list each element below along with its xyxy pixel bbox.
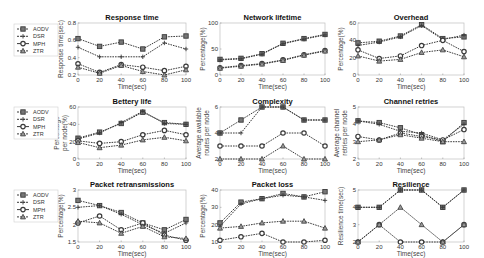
chart-title: Packet loss bbox=[252, 180, 293, 189]
legend-label: AODV bbox=[33, 26, 49, 32]
legend-label: ZTR bbox=[33, 131, 44, 137]
y-tick-label: 0.4 bbox=[68, 55, 77, 61]
data-point bbox=[239, 118, 243, 122]
legend: AODVDSRMPHZTR bbox=[14, 107, 58, 139]
x-axis-label: Time(sec) bbox=[397, 167, 426, 175]
x-tick-label: 100 bbox=[181, 77, 192, 83]
x-tick-label: 100 bbox=[320, 161, 331, 167]
data-point bbox=[462, 49, 466, 53]
plot-frame bbox=[78, 107, 186, 159]
data-point bbox=[218, 238, 222, 242]
y-tick-label: 0.2 bbox=[68, 72, 77, 78]
chart-title: Bettery life bbox=[113, 97, 152, 106]
x-axis-label: Time(sec) bbox=[118, 250, 147, 258]
legend-label: MPH bbox=[33, 41, 45, 47]
x-tick-label: 100 bbox=[459, 77, 470, 83]
x-axis-label: Time(sec) bbox=[258, 250, 287, 258]
subplot-channel-retries: Channel retries020406080100Time(sec)2345… bbox=[333, 97, 470, 175]
legend-marker-square bbox=[21, 27, 25, 31]
x-tick-label: 0 bbox=[218, 244, 222, 250]
y-tick-label: 1.5 bbox=[68, 239, 77, 245]
data-point bbox=[97, 214, 101, 218]
data-point bbox=[141, 133, 145, 137]
y-tick-label: 40 bbox=[69, 121, 76, 127]
data-point bbox=[356, 48, 360, 52]
data-point bbox=[323, 238, 327, 242]
subplot-overhead: Overhead020406080100Time(sec)0204060Perc… bbox=[337, 13, 470, 91]
y-tick-label: 5 bbox=[353, 104, 357, 110]
y-tick-label: 60 bbox=[69, 104, 76, 110]
plot-frame bbox=[78, 23, 186, 75]
legend-label: MPH bbox=[33, 124, 45, 130]
x-tick-label: 20 bbox=[376, 244, 383, 250]
data-point bbox=[239, 235, 243, 239]
data-point bbox=[119, 40, 123, 44]
x-tick-label: 0 bbox=[218, 161, 222, 167]
data-point bbox=[441, 38, 445, 42]
x-tick-label: 80 bbox=[439, 244, 446, 250]
x-axis-label: Time(sec) bbox=[397, 83, 426, 91]
y-tick-label: 60 bbox=[349, 20, 356, 26]
data-point bbox=[184, 34, 188, 38]
y-tick-label: 2.5 bbox=[68, 204, 77, 210]
data-point bbox=[260, 231, 264, 235]
legend-marker-circle bbox=[21, 41, 25, 45]
subplot-packet-retransmissions: Packet retransmissions020406080100Time(s… bbox=[57, 180, 192, 258]
x-tick-label: 0 bbox=[76, 244, 80, 250]
plot-frame bbox=[78, 190, 186, 242]
subplot-bettery-life: Bettery life020406080100Time(sec)0204060… bbox=[53, 97, 192, 175]
y-tick-label: 5 bbox=[353, 187, 357, 193]
chart-title: Response time bbox=[105, 13, 158, 22]
x-tick-label: 80 bbox=[439, 77, 446, 83]
x-tick-label: 0 bbox=[356, 244, 360, 250]
y-axis-label: retries per node bbox=[341, 110, 349, 156]
x-tick-label: 80 bbox=[439, 161, 446, 167]
y-tick-label: 3 bbox=[353, 222, 357, 228]
subplot-packet-loss: Packet loss020406080100Time(sec)10203040… bbox=[199, 180, 331, 258]
y-axis-label: per node(%) bbox=[61, 115, 69, 151]
legend-item: AODV bbox=[17, 192, 49, 198]
x-tick-label: 80 bbox=[161, 161, 168, 167]
y-axis-label: Percentage(%) bbox=[337, 27, 345, 70]
y-tick-label: 30 bbox=[211, 204, 218, 210]
data-point bbox=[323, 190, 327, 194]
legend-label: DSR bbox=[33, 116, 45, 122]
data-point bbox=[141, 47, 145, 51]
plot-frame bbox=[358, 107, 464, 159]
data-point bbox=[76, 36, 80, 40]
x-tick-label: 20 bbox=[238, 77, 245, 83]
y-axis-label: Average available bbox=[195, 107, 203, 159]
x-tick-label: 20 bbox=[376, 77, 383, 83]
legend-marker-circle bbox=[21, 207, 25, 211]
x-axis-label: Time(sec) bbox=[258, 167, 287, 175]
legend-item: AODV bbox=[17, 26, 49, 32]
y-tick-label: 40 bbox=[211, 187, 218, 193]
y-tick-label: 6 bbox=[215, 104, 219, 110]
legend-label: ZTR bbox=[33, 48, 44, 54]
subplot-complexity: Complexity020406080100Time(sec)246Averag… bbox=[195, 97, 331, 175]
chart-title: Overhead bbox=[394, 13, 429, 22]
x-tick-label: 80 bbox=[301, 244, 308, 250]
data-point bbox=[162, 35, 166, 39]
x-tick-label: 0 bbox=[218, 77, 222, 83]
x-tick-label: 0 bbox=[356, 161, 360, 167]
x-tick-label: 100 bbox=[181, 161, 192, 167]
x-axis-label: Time(sec) bbox=[118, 83, 147, 91]
data-point bbox=[218, 144, 222, 148]
y-axis-label: routes per node bbox=[203, 110, 211, 156]
y-axis-label: Percentage(%) bbox=[199, 27, 207, 70]
data-point bbox=[281, 240, 285, 244]
x-tick-label: 20 bbox=[238, 244, 245, 250]
legend-label: AODV bbox=[33, 192, 49, 198]
legend-marker-circle bbox=[21, 124, 25, 128]
data-point bbox=[419, 43, 423, 47]
data-point bbox=[97, 44, 101, 48]
y-axis-label: Average channel bbox=[333, 108, 341, 157]
chart-title: Complexity bbox=[252, 97, 293, 106]
data-point bbox=[281, 131, 285, 135]
legend-label: DSR bbox=[33, 199, 45, 205]
chart-title: Network lifetime bbox=[244, 13, 302, 22]
x-tick-label: 20 bbox=[238, 161, 245, 167]
x-tick-label: 0 bbox=[356, 77, 360, 83]
legend-marker-square bbox=[21, 193, 25, 197]
